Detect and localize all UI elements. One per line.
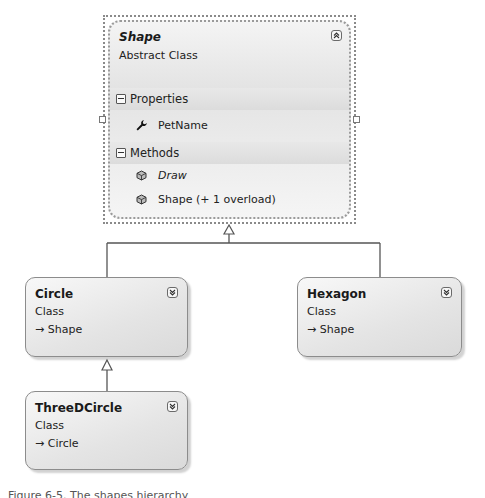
figure-caption: Figure 6-5. The shapes hierarchy [8,489,188,498]
expand-down-icon[interactable] [441,287,452,298]
base-class: → Circle [35,437,79,450]
class-circle[interactable]: Circle Class → Shape [25,277,188,357]
class-kind: Abstract Class [119,49,198,62]
member-name: Draw [158,169,187,182]
class-kind: Class [35,305,64,318]
section-properties[interactable]: Properties [116,92,188,106]
class-kind: Class [307,305,336,318]
class-shape-body: Shape Abstract Class Properties PetName … [108,20,351,219]
class-kind: Class [35,419,64,432]
base-class-name: Circle [48,437,79,450]
class-hexagon[interactable]: Hexagon Class → Shape [297,277,462,357]
inherit-arrow-icon: → [35,437,44,450]
class-title: ThreeDCircle [35,401,122,415]
collapse-section-icon[interactable] [116,148,126,158]
inherit-arrow-icon: → [307,323,316,336]
base-class-name: Shape [320,323,354,336]
member-name: PetName [158,119,208,132]
method-cube-icon [134,170,148,182]
class-title: Shape [119,30,161,44]
expand-down-icon[interactable] [167,401,178,412]
resize-handle-left[interactable] [99,116,106,123]
method-cube-icon [134,194,148,206]
member-draw[interactable]: Draw [134,169,187,182]
wrench-icon [134,120,148,132]
section-label: Properties [130,92,188,106]
resize-handle-right[interactable] [353,116,360,123]
member-name: Shape (+ 1 overload) [158,193,276,206]
collapse-up-icon[interactable] [331,30,342,41]
class-threedcircle[interactable]: ThreeDCircle Class → Circle [25,391,188,470]
class-title: Hexagon [307,287,366,301]
base-class: → Shape [35,323,82,336]
class-shape[interactable]: Shape Abstract Class Properties PetName … [103,15,356,224]
base-class-name: Shape [48,323,82,336]
section-methods[interactable]: Methods [116,146,179,160]
section-label: Methods [130,146,179,160]
class-title: Circle [35,287,73,301]
inherit-arrow-icon: → [35,323,44,336]
collapse-section-icon[interactable] [116,94,126,104]
expand-down-icon[interactable] [167,287,178,298]
base-class: → Shape [307,323,354,336]
member-shape-ctor[interactable]: Shape (+ 1 overload) [134,193,276,206]
member-petname[interactable]: PetName [134,119,208,132]
